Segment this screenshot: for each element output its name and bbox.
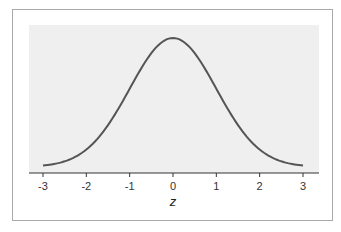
x-tick-label: -3 [38, 180, 48, 192]
x-tick-label: -2 [81, 180, 91, 192]
x-tick-label: 2 [257, 180, 263, 192]
x-tick-label: 1 [213, 180, 219, 192]
x-tick-label: 0 [170, 180, 176, 192]
x-axis-ticks: -3-2-10123 [38, 173, 306, 192]
plot-area [29, 25, 319, 173]
x-tick-label: -1 [125, 180, 135, 192]
x-axis-title: z [169, 194, 177, 209]
x-tick-label: 3 [300, 180, 306, 192]
normal-distribution-chart: -3-2-10123 z [0, 0, 341, 232]
